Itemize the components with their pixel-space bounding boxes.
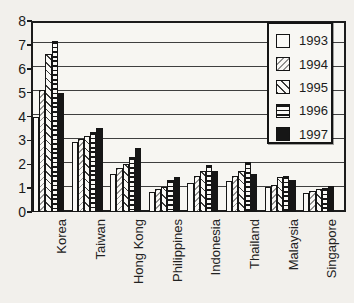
y-axis-tick-mark-3 bbox=[27, 140, 32, 142]
y-axis-tick-label-4: 4 bbox=[0, 110, 26, 124]
legend-label-1995: 1995 bbox=[299, 80, 328, 95]
legend-label-1997: 1997 bbox=[299, 127, 328, 142]
y-axis-tick-label-3: 3 bbox=[0, 133, 26, 147]
y-axis-tick-mark-8 bbox=[27, 20, 32, 22]
y-axis-tick-mark-2 bbox=[27, 164, 32, 166]
bar-korea-1997 bbox=[58, 93, 64, 212]
legend-swatch-1995 bbox=[276, 80, 290, 94]
legend-entry-1993: 1993 bbox=[269, 29, 331, 52]
y-axis-tick-mark-6 bbox=[27, 68, 32, 70]
category-label-hong-kong: Hong Kong bbox=[132, 219, 145, 303]
y-axis-tick-mark-4 bbox=[27, 116, 32, 118]
y-axis-tick-label-7: 7 bbox=[0, 38, 26, 52]
bar-singapore-1997 bbox=[328, 186, 334, 212]
legend-swatch-1996 bbox=[276, 104, 290, 118]
legend-entry-1996: 1996 bbox=[269, 99, 331, 122]
legend-label-1993: 1993 bbox=[299, 33, 328, 48]
legend-entry-1995: 1995 bbox=[269, 76, 331, 99]
y-axis-tick-mark-0 bbox=[27, 211, 32, 213]
y-axis-tick-mark-5 bbox=[27, 92, 32, 94]
legend-label-1994: 1994 bbox=[299, 57, 328, 72]
y-axis-tick-mark-1 bbox=[27, 187, 32, 189]
legend-entry-1997: 1997 bbox=[269, 123, 331, 146]
bar-taiwan-1997 bbox=[96, 128, 102, 212]
y-axis-tick-label-2: 2 bbox=[0, 157, 26, 171]
category-label-malaysia: Malaysia bbox=[287, 219, 300, 303]
category-label-thailand: Thailand bbox=[248, 219, 261, 303]
legend-swatch-1997 bbox=[276, 127, 290, 141]
y-axis-tick-label-0: 0 bbox=[0, 205, 26, 219]
y-axis-tick-label-5: 5 bbox=[0, 86, 26, 100]
category-label-korea: Korea bbox=[55, 219, 68, 303]
bar-philippines-1997 bbox=[174, 177, 180, 212]
y-axis-tick-mark-7 bbox=[27, 44, 32, 46]
legend: 19931994199519961997 bbox=[267, 22, 333, 144]
legend-swatch-1993 bbox=[276, 34, 290, 48]
bar-chart-figure: 012345678 KoreaTaiwanHong KongPhilippine… bbox=[0, 0, 354, 303]
category-label-singapore: Singapore bbox=[325, 219, 338, 303]
y-axis-tick-label-6: 6 bbox=[0, 62, 26, 76]
y-axis-tick-label-1: 1 bbox=[0, 181, 26, 195]
bar-thailand-1997 bbox=[251, 174, 257, 212]
bar-hong-kong-1997 bbox=[135, 148, 141, 212]
category-label-indonesia: Indonesia bbox=[209, 219, 222, 303]
category-label-philippines: Philippines bbox=[171, 219, 184, 303]
bar-indonesia-1997 bbox=[212, 171, 218, 212]
legend-label-1996: 1996 bbox=[299, 103, 328, 118]
category-label-taiwan: Taiwan bbox=[94, 219, 107, 303]
y-axis-tick-label-8: 8 bbox=[0, 14, 26, 28]
bar-malaysia-1997 bbox=[289, 180, 295, 212]
legend-swatch-1994 bbox=[276, 57, 290, 71]
legend-entry-1994: 1994 bbox=[269, 52, 331, 75]
